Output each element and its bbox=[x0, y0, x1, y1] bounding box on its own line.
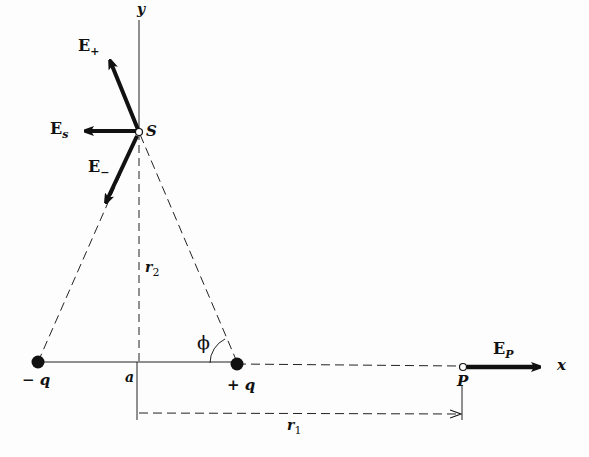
e-plus-vector bbox=[111, 63, 139, 132]
r2-label: r2 bbox=[145, 260, 159, 274]
e-minus-vector bbox=[107, 136, 137, 200]
e-minus-label: E− bbox=[88, 159, 109, 175]
positive-charge bbox=[231, 358, 244, 371]
negative-charge bbox=[32, 356, 45, 369]
phi-label: ϕ bbox=[197, 333, 210, 352]
dipole-field-diagram: y x E+ Es E− EP S P − q + q a ϕ r2 r1 bbox=[0, 0, 589, 457]
x-axis-label: x bbox=[557, 358, 566, 373]
point-p-label: P bbox=[457, 374, 468, 389]
y-axis-label: y bbox=[137, 2, 145, 16]
diagram-canvas bbox=[0, 0, 589, 457]
phi-arc bbox=[210, 339, 225, 363]
positive-charge-label: + q bbox=[227, 378, 255, 393]
origin-label: a bbox=[125, 370, 134, 384]
negative-charge-label: − q bbox=[22, 373, 50, 388]
r1-label: r1 bbox=[287, 418, 301, 432]
x-axis-dashed bbox=[237, 364, 459, 366]
e-p-label: EP bbox=[493, 341, 513, 357]
e-plus-label: E+ bbox=[78, 38, 99, 54]
point-s-label: S bbox=[146, 124, 157, 139]
e-s-label: Es bbox=[50, 121, 68, 137]
point-p bbox=[460, 364, 467, 371]
r1-dimension bbox=[139, 413, 461, 414]
pos-to-s-line bbox=[139, 132, 237, 362]
point-s bbox=[136, 129, 143, 136]
